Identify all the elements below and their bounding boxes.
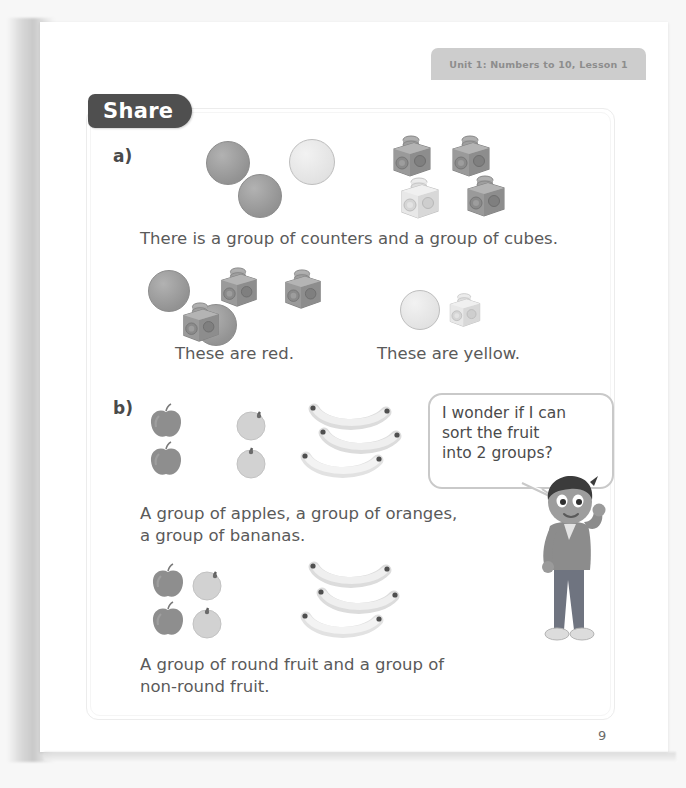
round-group-orange-2 — [190, 606, 224, 640]
apple-2 — [146, 440, 186, 480]
round-group-apple-1 — [148, 562, 188, 602]
red-group-cube-2 — [282, 267, 324, 311]
unit-tab-label: Unit 1: Numbers to 10, Lesson 1 — [449, 59, 628, 70]
counter-red-2 — [238, 174, 282, 218]
cube-red-1 — [390, 133, 434, 179]
banana-3 — [300, 452, 386, 482]
orange-1 — [234, 408, 268, 442]
round-group-orange-1 — [190, 568, 224, 602]
page-number: 9 — [598, 728, 606, 743]
counter-red-1 — [206, 141, 250, 185]
counter-yellow-1 — [289, 139, 335, 185]
red-group-cube-3 — [180, 300, 222, 344]
yellow-group-counter-1 — [400, 290, 440, 330]
yellow-group-label: These are yellow. — [377, 343, 520, 365]
part-b-caption: A group of apples, a group of oranges, a… — [140, 503, 457, 547]
cube-yellow-1 — [398, 175, 442, 221]
student-character-illustration — [524, 470, 620, 655]
non-round-group-banana-3 — [300, 612, 386, 642]
share-section-label: Share — [88, 99, 173, 123]
red-group-cube-1 — [218, 265, 260, 309]
page-bottom-shadow — [44, 752, 676, 761]
yellow-group-cube-1 — [447, 291, 483, 329]
red-group-label: These are red. — [175, 343, 294, 365]
apple-1 — [146, 402, 186, 442]
part-b-marker: b) — [113, 398, 133, 418]
share-section-banner: Share — [88, 94, 192, 128]
round-group-apple-2 — [148, 600, 188, 640]
speech-bubble-text: I wonder if I can sort the fruit into 2 … — [442, 404, 608, 463]
cube-red-3 — [464, 173, 508, 219]
part-a-marker: a) — [113, 146, 132, 166]
orange-2 — [234, 446, 268, 480]
unit-tab: Unit 1: Numbers to 10, Lesson 1 — [431, 48, 646, 80]
part-a-caption: There is a group of counters and a group… — [140, 228, 558, 250]
part-b-caption-2: A group of round fruit and a group of no… — [140, 654, 444, 698]
